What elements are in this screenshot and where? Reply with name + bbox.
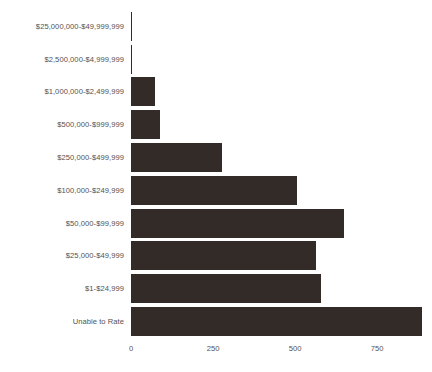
bar (131, 209, 344, 238)
y-axis-tick-row: $25,000,000-$49,999,999 (0, 10, 124, 43)
bar (131, 143, 222, 172)
x-axis-line (131, 338, 423, 339)
x-axis-tick-label: 500 (289, 344, 302, 353)
y-axis-tick-label: $500,000-$999,999 (57, 120, 124, 129)
x-axis-tick-label: 0 (129, 344, 133, 353)
bar-chart: $25,000,000-$49,999,999 $2,500,000-$4,99… (0, 0, 432, 372)
y-axis-tick-row: $2,500,000-$4,999,999 (0, 43, 124, 76)
y-axis-tick-row: $100,000-$249,999 (0, 174, 124, 207)
y-axis-tick-row: $250,000-$499,999 (0, 141, 124, 174)
y-axis-tick-label: Unable to Rate (73, 317, 124, 326)
plot-area (131, 10, 423, 338)
bar-row (131, 305, 423, 338)
bar-row (131, 240, 423, 273)
bar (131, 77, 155, 106)
bar-row (131, 10, 423, 43)
y-axis-category-labels: $25,000,000-$49,999,999 $2,500,000-$4,99… (0, 10, 124, 338)
bar-row (131, 207, 423, 240)
bar (131, 12, 132, 41)
y-axis-tick-label: $50,000-$99,999 (66, 219, 124, 228)
bar-row (131, 174, 423, 207)
y-axis-tick-row: $50,000-$99,999 (0, 207, 124, 240)
y-axis-tick-row: Unable to Rate (0, 305, 124, 338)
y-axis-tick-label: $100,000-$249,999 (57, 186, 124, 195)
bar-row (131, 43, 423, 76)
bar (131, 176, 297, 205)
bar (131, 110, 160, 139)
bar-row (131, 76, 423, 109)
x-axis-tick-labels: 0 250 500 750 (0, 344, 432, 358)
bar-row (131, 272, 423, 305)
y-axis-tick-label: $250,000-$499,999 (57, 153, 124, 162)
y-axis-tick-label: $2,500,000-$4,999,999 (44, 55, 124, 64)
y-axis-tick-row: $1,000,000-$2,499,999 (0, 76, 124, 109)
bar (131, 274, 321, 303)
y-axis-tick-row: $25,000-$49,999 (0, 240, 124, 273)
y-axis-tick-row: $1-$24,999 (0, 272, 124, 305)
y-axis-tick-label: $1,000,000-$2,499,999 (44, 87, 124, 96)
bar-row (131, 141, 423, 174)
y-axis-tick-label: $25,000,000-$49,999,999 (36, 22, 124, 31)
y-axis-tick-row: $500,000-$999,999 (0, 108, 124, 141)
bar (131, 241, 316, 270)
bar (131, 45, 132, 74)
bar (131, 307, 422, 336)
y-axis-tick-label: $1-$24,999 (85, 284, 124, 293)
x-axis-tick-label: 750 (371, 344, 384, 353)
x-axis-tick-label: 250 (207, 344, 220, 353)
y-axis-tick-label: $25,000-$49,999 (66, 251, 124, 260)
bar-row (131, 108, 423, 141)
